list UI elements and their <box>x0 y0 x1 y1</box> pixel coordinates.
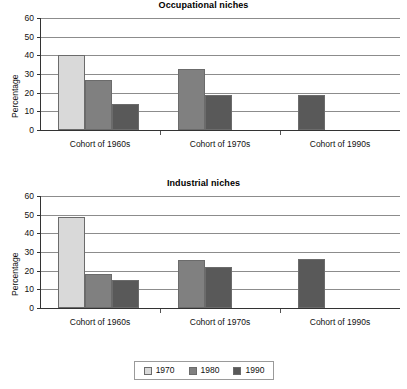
grid-line <box>40 74 400 75</box>
bar <box>178 260 205 308</box>
y-tick-label: 20 <box>12 89 34 97</box>
x-category-label: Cohort of 1970s <box>160 317 280 327</box>
x-category-label: Cohort of 1970s <box>160 139 280 149</box>
legend-label-1970: 1970 <box>156 366 175 375</box>
y-tick-label: 40 <box>12 51 34 59</box>
chart-industrial-niches: Industrial niches Percentage 01020304050… <box>0 178 407 353</box>
x-category-label: Cohort of 1990s <box>280 317 400 327</box>
grid-line <box>40 55 400 56</box>
x-tick <box>160 309 161 313</box>
bar <box>205 95 232 130</box>
y-tick-label: 40 <box>12 229 34 237</box>
x-category-label: Cohort of 1960s <box>40 139 160 149</box>
legend-swatch-1990 <box>233 367 241 375</box>
y-axis <box>40 18 41 130</box>
bar <box>178 69 205 130</box>
x-category-label: Cohort of 1990s <box>280 139 400 149</box>
legend-label-1990: 1990 <box>245 366 264 375</box>
plot-area: 0102030405060Cohort of 1960sCohort of 19… <box>40 18 400 130</box>
y-tick-label: 60 <box>12 14 34 22</box>
y-tick-label: 20 <box>12 267 34 275</box>
x-category-label: Cohort of 1960s <box>40 317 160 327</box>
y-tick-label: 0 <box>12 304 34 312</box>
x-tick <box>280 309 281 313</box>
legend-item: 1970 <box>144 366 175 375</box>
bar <box>112 104 139 130</box>
grid-line <box>40 215 400 216</box>
y-tick-label: 60 <box>12 192 34 200</box>
x-tick <box>160 131 161 135</box>
plot-area: 0102030405060Cohort of 1960sCohort of 19… <box>40 196 400 308</box>
bar <box>298 95 325 130</box>
x-axis <box>40 308 400 309</box>
legend-swatch-1980 <box>189 367 197 375</box>
grid-line <box>40 233 400 234</box>
legend-item: 1980 <box>189 366 220 375</box>
y-axis <box>40 196 41 308</box>
bar <box>85 274 112 308</box>
chart-title: Occupational niches <box>0 0 407 10</box>
bar <box>205 267 232 308</box>
y-tick-label: 30 <box>12 248 34 256</box>
bar <box>58 55 85 130</box>
chart-occupational-niches: Occupational niches Percentage 010203040… <box>0 0 407 175</box>
bar <box>112 280 139 308</box>
y-tick-label: 50 <box>12 33 34 41</box>
grid-line <box>40 37 400 38</box>
grid-line <box>40 252 400 253</box>
x-tick <box>280 131 281 135</box>
legend-item: 1990 <box>233 366 264 375</box>
grid-line <box>40 196 400 197</box>
y-tick-label: 0 <box>12 126 34 134</box>
bar <box>85 80 112 130</box>
bar <box>298 259 325 308</box>
grid-line <box>40 18 400 19</box>
legend-swatch-1970 <box>144 367 152 375</box>
figure-root: Occupational niches Percentage 010203040… <box>0 0 407 389</box>
y-tick-label: 50 <box>12 211 34 219</box>
chart-legend: 1970 1980 1990 <box>134 361 274 380</box>
y-tick-label: 30 <box>12 70 34 78</box>
legend-label-1980: 1980 <box>201 366 220 375</box>
y-tick-label: 10 <box>12 285 34 293</box>
bar <box>58 217 85 308</box>
x-axis <box>40 130 400 131</box>
y-tick-label: 10 <box>12 107 34 115</box>
chart-title: Industrial niches <box>0 178 407 188</box>
